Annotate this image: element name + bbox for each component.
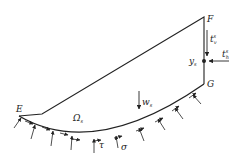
label-horizontal-traction: ths [222,48,229,60]
label-shear-stress: τ [99,140,105,150]
label-G: G [207,79,214,89]
surface-stress-arrows [14,93,201,153]
label-vertical-traction: tvs [210,33,217,45]
label-E: E [15,104,23,114]
label-region-omega: Ωs [72,113,83,124]
point-ys [202,59,206,63]
label-normal-stress: σ [121,142,128,152]
body-outline [19,17,204,132]
label-weight: ws [142,97,153,108]
label-point-ys: ys [188,56,197,67]
label-F: F [206,14,214,24]
diagram-canvas: E F G Ωs ys tvs ths ws τ σ [0,0,242,160]
